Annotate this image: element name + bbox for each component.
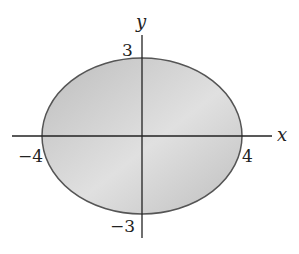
tick-label-y-pos: 3 [122,40,133,60]
y-axis-label: y [135,11,147,32]
x-axis-label: x [277,124,287,145]
tick-label-x-pos: 4 [242,146,253,166]
tick-label-x-neg: −4 [18,146,43,166]
ellipse-diagram: x y 3 −3 −4 4 [0,0,299,254]
tick-label-y-neg: −3 [110,216,135,236]
